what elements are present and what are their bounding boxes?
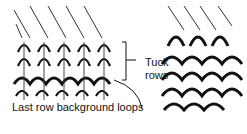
right-fabric bbox=[162, 37, 242, 110]
left-needles bbox=[14, 6, 102, 38]
rows-label: rows bbox=[145, 70, 168, 81]
tuck-bracket bbox=[122, 42, 136, 80]
tuck-label: Tuck bbox=[145, 57, 168, 68]
last-row-label: Last row background loops bbox=[12, 102, 143, 113]
knitting-diagram bbox=[0, 0, 247, 134]
left-stitches bbox=[14, 45, 110, 96]
left-verticals bbox=[24, 42, 104, 100]
right-needles bbox=[168, 6, 232, 30]
